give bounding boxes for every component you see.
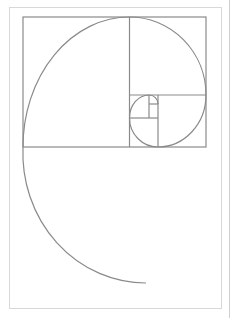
spiral-arc-6: [149, 95, 158, 104]
spiral-arc-2: [130, 17, 207, 95]
golden-spiral-diagram: [0, 0, 235, 318]
spiral-arc-outer: [23, 147, 146, 283]
golden-rectangle: [23, 17, 206, 147]
spiral-arc-4: [130, 118, 159, 147]
spiral-arc-5: [130, 95, 150, 118]
spiral-arc-1: [23, 17, 130, 147]
spiral-arc-3: [158, 95, 206, 147]
